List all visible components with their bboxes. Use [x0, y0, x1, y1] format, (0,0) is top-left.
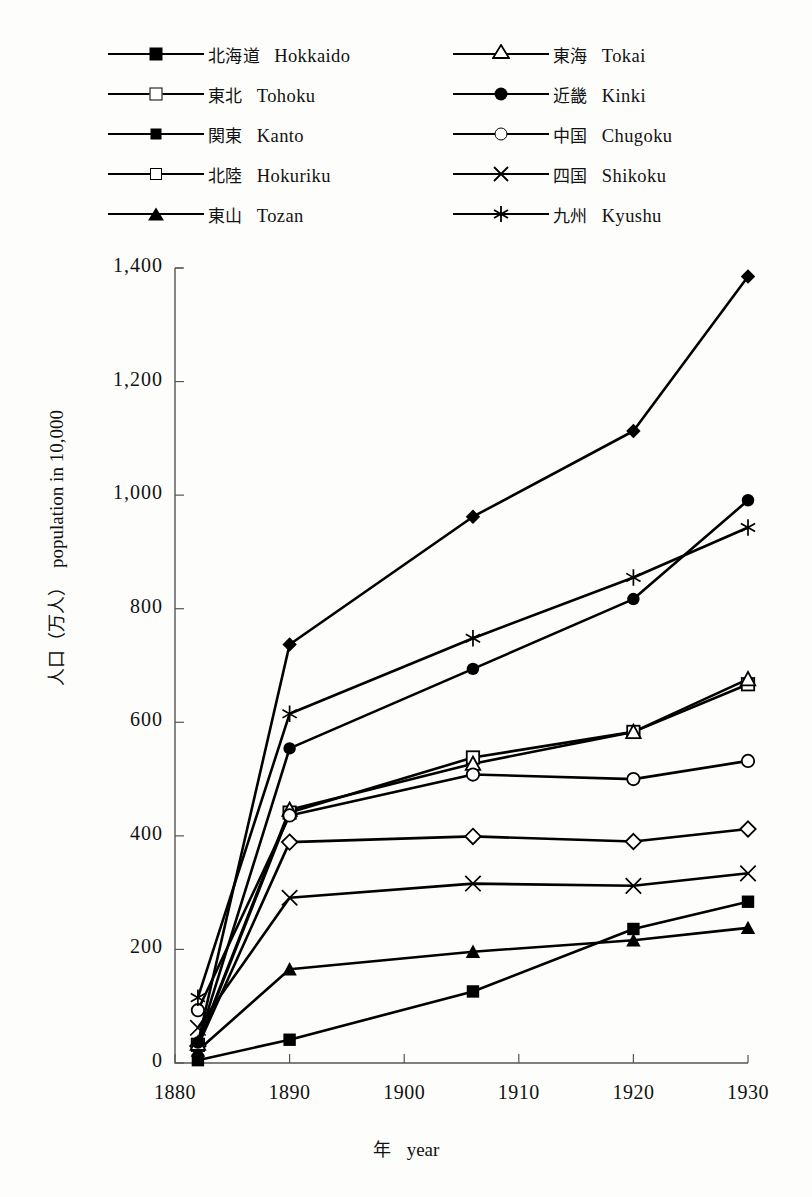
circle-filled-icon [283, 742, 295, 754]
marker-circle-open [627, 773, 639, 785]
x-axis-tick-label: 1920 [593, 1081, 673, 1104]
diamond-open-icon [465, 829, 480, 844]
circle-open-icon [283, 809, 295, 821]
square-filled-icon [467, 985, 479, 997]
x-axis-tick-label: 1910 [479, 1081, 559, 1104]
axis-lines [175, 268, 748, 1063]
y-axis-tick-label: 200 [67, 935, 163, 958]
marker-asterisk [466, 630, 480, 646]
x-axis-title-en: year [407, 1139, 440, 1160]
series-line-hokkaido [198, 902, 748, 1060]
marker-circle-filled [742, 494, 754, 506]
marker-circle-filled [467, 663, 479, 675]
diamond-open-icon [626, 834, 641, 849]
square-filled-icon [742, 896, 754, 908]
series-kanto [198, 277, 748, 1044]
population-line-chart-figure: 北海道Hokkaido東北Tohoku関東Kanto北陸Hokuriku東山To… [0, 0, 812, 1197]
x-axis-tick-label: 1890 [250, 1081, 330, 1104]
marker-asterisk [741, 519, 755, 535]
square-filled-icon [283, 1034, 295, 1046]
y-axis-tick-label: 600 [67, 708, 163, 731]
marker-diamond-open [465, 829, 480, 844]
marker-diamond-open [282, 834, 297, 849]
circle-filled-icon [627, 593, 639, 605]
marker-circle-filled [192, 1036, 204, 1048]
y-axis-title-en: population in 10,000 [46, 410, 67, 568]
marker-diamond-open [626, 834, 641, 849]
y-axis-tick-label: 400 [67, 822, 163, 845]
marker-circle-filled [283, 742, 295, 754]
y-axis-tick-label: 0 [67, 1049, 163, 1072]
asterisk-icon [626, 569, 640, 585]
circle-filled-icon [742, 494, 754, 506]
x-axis-tick-label: 1880 [135, 1081, 215, 1104]
diamond-open-icon [740, 821, 755, 836]
circle-filled-icon [192, 1036, 204, 1048]
y-axis-tick-label: 800 [67, 595, 163, 618]
series-line-chugoku [198, 761, 748, 1010]
marker-circle-open [467, 768, 479, 780]
marker-square-filled [283, 1034, 295, 1046]
series-markers [190, 269, 755, 1066]
asterisk-icon [466, 630, 480, 646]
circle-open-icon [467, 768, 479, 780]
series-points-kanto [191, 269, 755, 1050]
series-hokkaido [198, 902, 748, 1060]
x-axis-tick-label: 1900 [364, 1081, 444, 1104]
axes [175, 268, 748, 1063]
y-axis-tick-label: 1,200 [67, 368, 163, 391]
diamond-open-icon [282, 834, 297, 849]
circle-open-icon [627, 773, 639, 785]
y-axis-tick-label: 1,400 [67, 254, 163, 277]
series-line-kanto [198, 277, 748, 1044]
y-axis-tick-label: 1,000 [67, 481, 163, 504]
marker-circle-filled [627, 593, 639, 605]
y-axis-title-jp: 人口（万人） [46, 578, 67, 686]
marker-asterisk [282, 706, 296, 722]
marker-diamond-open [740, 821, 755, 836]
circle-filled-icon [467, 663, 479, 675]
asterisk-icon [282, 706, 296, 722]
marker-square-filled [467, 985, 479, 997]
marker-circle-open [283, 809, 295, 821]
marker-asterisk [626, 569, 640, 585]
series-chugoku [198, 761, 748, 1010]
x-axis-title: 年year [0, 1135, 812, 1161]
marker-circle-open [742, 755, 754, 767]
marker-square-filled [742, 896, 754, 908]
circle-open-icon [742, 755, 754, 767]
asterisk-icon [741, 519, 755, 535]
x-axis-title-jp: 年 [373, 1139, 391, 1160]
plot-area: 人口（万人）population in 10,000 年year 0200400… [0, 0, 812, 1197]
y-axis-title: 人口（万人）population in 10,000 [42, 410, 68, 686]
x-axis-tick-label: 1930 [708, 1081, 788, 1104]
